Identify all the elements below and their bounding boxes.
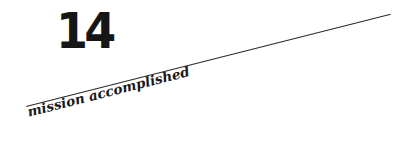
chapter-number: 14 (56, 6, 113, 56)
chapter-title: mission accomplished (26, 65, 191, 119)
